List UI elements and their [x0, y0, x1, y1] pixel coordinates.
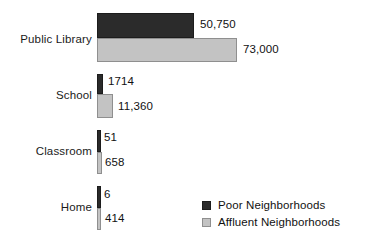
legend-item-poor-neighborhoods: Poor Neighborhoods [202, 197, 340, 213]
bar-public-library-affluent [97, 38, 237, 62]
bar-school-poor [97, 74, 103, 94]
category-label-public-library: Public Library [20, 33, 92, 45]
bar-school-affluent [97, 94, 113, 118]
category-label-classroom: Classroom [36, 145, 92, 157]
legend-label-affluent-neighborhoods: Affluent Neighborhoods [218, 216, 340, 228]
chart-legend: Poor Neighborhoods Affluent Neighborhood… [202, 197, 340, 231]
legend-label-poor-neighborhoods: Poor Neighborhoods [218, 199, 325, 211]
bar-home-affluent [97, 208, 101, 230]
bar-home-poor [97, 186, 101, 208]
legend-swatch-light-icon [202, 218, 211, 227]
value-label-public-library-affluent: 73,000 [243, 43, 279, 55]
legend-swatch-dark-icon [202, 201, 211, 210]
category-label-school: School [56, 89, 92, 101]
legend-item-affluent-neighborhoods: Affluent Neighborhoods [202, 214, 340, 230]
value-label-home-affluent: 414 [105, 212, 125, 224]
value-label-school-poor: 1714 [108, 75, 134, 87]
value-label-home-poor: 6 [104, 188, 111, 200]
category-label-home: Home [61, 201, 92, 213]
value-label-public-library-poor: 50,750 [200, 18, 236, 30]
value-label-school-affluent: 11,360 [118, 100, 153, 112]
bar-classroom-affluent [97, 152, 102, 174]
bar-public-library-poor [97, 13, 194, 38]
value-label-classroom-poor: 51 [104, 131, 117, 143]
bar-classroom-poor [97, 130, 101, 152]
value-label-classroom-affluent: 658 [105, 156, 125, 168]
bar-chart: Public Library 50,750 73,000 School 1714… [0, 0, 365, 241]
